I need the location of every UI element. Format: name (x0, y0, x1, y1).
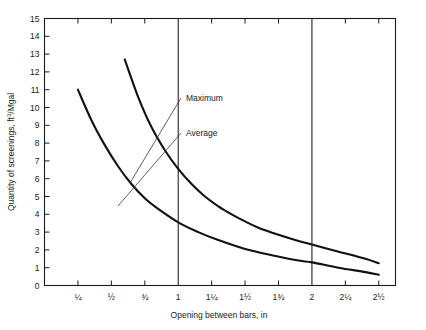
x-tick-label: 1¾ (273, 292, 286, 302)
y-axis-title-post: /Mgal (6, 93, 16, 114)
y-tick-label: 0 (35, 281, 40, 291)
y-tick-label: 10 (30, 103, 40, 113)
y-tick-label: 5 (35, 192, 40, 202)
y-tick-label: 14 (30, 31, 40, 41)
y-tick-label: 15 (30, 14, 40, 24)
x-tick-label: 2½ (373, 292, 385, 302)
y-tick-label: 1 (35, 263, 40, 273)
y-tick-label: 13 (30, 49, 40, 59)
y-tick-label: 2 (35, 245, 40, 255)
screenings-quantity-chart: 0123456789101112131415 ¼½¾11¼1½1¾22¼2½ M… (0, 0, 426, 330)
y-tick-label: 3 (35, 227, 40, 237)
x-tick-label: 2 (310, 292, 315, 302)
y-tick-label: 6 (35, 174, 40, 184)
x-tick-label: ¾ (141, 292, 149, 302)
x-tick-label: ½ (108, 292, 115, 302)
x-tick-label: ¼ (74, 292, 82, 302)
x-tick-label: 1 (176, 292, 181, 302)
x-tick-label: 1¼ (206, 292, 219, 302)
annotation-maximum: Maximum (186, 93, 223, 103)
y-tick-label: 9 (35, 120, 40, 130)
x-axis-title: Opening between bars, in (171, 310, 268, 320)
y-tick-label: 8 (35, 138, 40, 148)
annotation-average: Average (186, 128, 218, 138)
chart-container: 0123456789101112131415 ¼½¾11¼1½1¾22¼2½ M… (0, 0, 426, 330)
y-tick-label: 12 (30, 67, 40, 77)
chart-background (0, 0, 426, 330)
y-tick-label: 4 (35, 209, 40, 219)
x-tick-label: 2¼ (339, 292, 352, 302)
x-tick-label: 1½ (239, 292, 251, 302)
y-axis-title: Quantity of screenings, ft3/Mgal (6, 93, 16, 211)
y-axis-title-pre: Quantity of screenings, ft (6, 116, 16, 211)
y-tick-label: 11 (31, 85, 40, 95)
y-tick-label: 7 (35, 156, 40, 166)
